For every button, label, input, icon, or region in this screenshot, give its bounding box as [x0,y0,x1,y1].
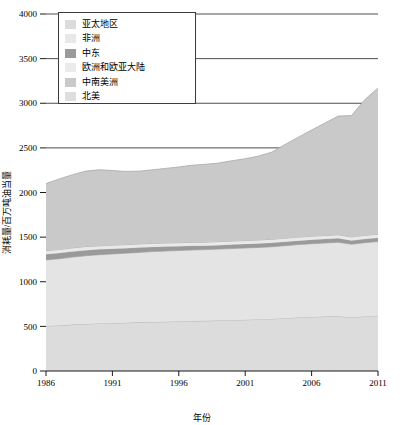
legend-item-label: 中东 [82,49,100,58]
x-tick-label: 1996 [170,378,189,388]
legend-swatch-icon [65,49,76,58]
legend: 亚太地区非洲中东欧洲和欧亚大陆中南美洲北美 [58,12,196,104]
legend-item-label: 中南美洲 [82,78,118,87]
x-tick-label: 2011 [369,378,387,388]
y-axis-title: 消耗量/百万吨油当量 [0,0,15,425]
legend-item-label: 欧洲和欧亚大陆 [82,63,145,72]
y-tick-label: 2500 [19,143,38,153]
x-axis-ticks: 198619911996200120062011 [37,371,387,388]
legend-item[interactable]: 北美 [65,90,195,104]
y-axis-title-text: 消耗量/百万吨油当量 [1,171,14,255]
y-tick-label: 1000 [19,277,38,287]
x-tick-label: 1986 [37,378,56,388]
x-tick-label: 2001 [236,378,254,388]
area-series-group [46,88,378,371]
legend-item-label: 北美 [82,92,100,101]
y-axis-ticks: 05001000150020002500300035004000 [19,9,46,376]
stacked-area-chart: 05001000150020002500300035004000 1986199… [0,0,403,425]
x-tick-label: 1991 [103,378,121,388]
x-tick-label: 2006 [303,378,322,388]
legend-swatch-icon [65,92,76,101]
y-tick-label: 3000 [19,98,38,108]
legend-item[interactable]: 中东 [65,46,195,60]
legend-item[interactable]: 亚太地区 [65,17,195,31]
y-tick-label: 1500 [19,232,38,242]
legend-item[interactable]: 欧洲和欧亚大陆 [65,61,195,75]
legend-swatch-icon [65,63,76,72]
area-band [46,316,378,371]
legend-item-label: 亚太地区 [82,20,118,29]
legend-item[interactable]: 中南美洲 [65,75,195,89]
y-tick-label: 4000 [19,9,38,19]
legend-swatch-icon [65,78,76,87]
y-tick-label: 2000 [19,188,38,198]
legend-swatch-icon [65,34,76,43]
legend-swatch-icon [65,20,76,29]
area-band [46,88,378,251]
legend-item[interactable]: 非洲 [65,32,195,46]
y-tick-label: 0 [33,366,38,376]
y-tick-label: 3500 [19,54,38,64]
legend-item-label: 非洲 [82,34,100,43]
y-tick-label: 500 [24,322,38,332]
x-axis-title-text: 年份 [193,413,211,423]
x-axis-title: 年份 [0,411,403,424]
